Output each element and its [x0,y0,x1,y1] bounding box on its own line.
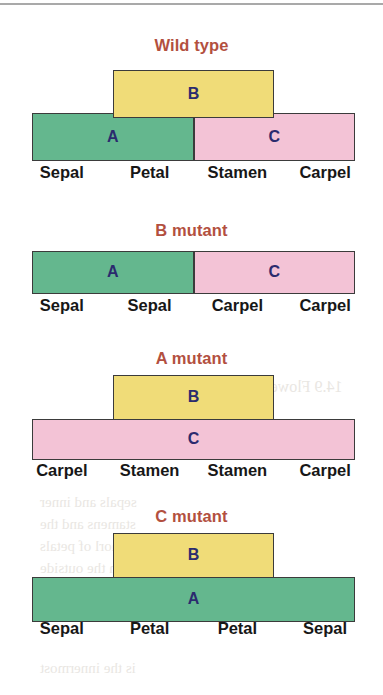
organ-label: Petal [194,620,282,637]
organ-label: Carpel [281,297,369,314]
organ-label: Sepal [18,620,106,637]
panel-title: Wild type [0,37,383,54]
organ-label-row: SepalPetalStamenCarpel [18,164,369,181]
panel-title: B mutant [0,222,383,239]
organ-label: Carpel [194,297,282,314]
gene-box-label: B [188,86,200,102]
gene-box-b: B [113,375,275,420]
gene-box-c: C [194,251,356,294]
gene-box-label: C [188,431,200,447]
organ-label: Stamen [106,462,194,479]
organ-label: Stamen [194,164,282,181]
organ-label: Sepal [281,620,369,637]
organ-label: Stamen [194,462,282,479]
organ-label: Carpel [18,462,106,479]
organ-label: Carpel [281,164,369,181]
gene-box-c: C [194,113,356,161]
gene-box-label: A [107,129,119,145]
organ-label: Petal [106,620,194,637]
gene-box-a: A [32,577,355,622]
gene-box-a: A [32,113,194,161]
organ-label: Sepal [18,164,106,181]
gene-box-b: B [113,533,275,578]
panel-title: A mutant [0,350,383,367]
gene-box-a: A [32,251,194,294]
organ-label-row: SepalPetalPetalSepal [18,620,369,637]
organ-label: Sepal [106,297,194,314]
gene-box-b: B [113,70,275,118]
organ-label-row: SepalSepalCarpelCarpel [18,297,369,314]
organ-label: Carpel [281,462,369,479]
organ-label-row: CarpelStamenStamenCarpel [18,462,369,479]
gene-box-c: C [32,419,355,460]
gene-box-label: C [268,129,280,145]
gene-box-label: A [188,591,200,607]
organ-label: Sepal [18,297,106,314]
gene-box-label: C [268,264,280,280]
gene-box-label: A [107,264,119,280]
gene-box-label: B [188,547,200,563]
panel-title: C mutant [0,508,383,525]
organ-label: Petal [106,164,194,181]
abc-model-figure: Wild typeACBSepalPetalStamenCarpelB muta… [0,0,383,695]
gene-box-label: B [188,389,200,405]
